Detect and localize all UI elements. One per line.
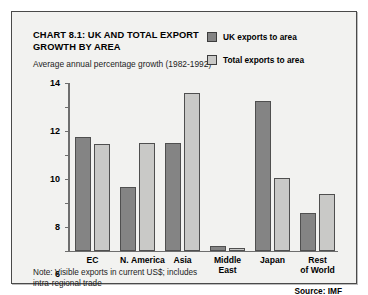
bar-group: Restof World xyxy=(300,83,335,251)
legend-label-total-exports: Total exports to area xyxy=(223,55,304,65)
x-axis-category-label: Restof World xyxy=(300,255,335,275)
x-axis-category-label: Japan xyxy=(255,255,290,265)
bar-group: Asia xyxy=(165,83,200,251)
legend-item-total-exports: Total exports to area xyxy=(207,55,342,65)
legend-item-uk-exports: UK exports to area xyxy=(207,32,342,42)
bar-total-exports xyxy=(319,194,335,250)
y-axis-tick-mark: 6 xyxy=(65,179,68,180)
bar-uk-exports xyxy=(210,246,226,250)
bar-uk-exports xyxy=(300,213,316,250)
y-axis-tick-mark: 10 xyxy=(65,131,68,132)
y-axis-tick-mark: 12 xyxy=(65,107,68,108)
bar-group: EC xyxy=(75,83,110,251)
legend-label-uk-exports: UK exports to area xyxy=(223,32,297,42)
bar-uk-exports xyxy=(75,137,91,251)
x-axis-line xyxy=(68,251,338,253)
bar-total-exports xyxy=(184,93,200,251)
chart-note: Note: Visible exports in current US$; in… xyxy=(33,268,218,289)
y-axis-tick-label: 8 xyxy=(55,222,60,232)
bar-uk-exports xyxy=(120,187,136,250)
bar-total-exports xyxy=(229,248,245,250)
y-axis-tick-label: 12 xyxy=(50,126,60,136)
bar-group: MiddleEast xyxy=(210,83,245,251)
chart-title: CHART 8.1: UK AND TOTAL EXPORT GROWTH BY… xyxy=(33,30,223,53)
x-axis-category-label: EC xyxy=(75,255,110,265)
y-axis-line xyxy=(68,83,70,252)
chart-legend: UK exports to area Total exports to area xyxy=(207,32,342,78)
y-axis-tick-label: 10 xyxy=(50,174,60,184)
bar-group: Japan xyxy=(255,83,290,251)
y-axis-tick-mark: 0 xyxy=(65,251,68,252)
y-axis-tick-label: 14 xyxy=(50,78,60,88)
bar-uk-exports xyxy=(165,143,181,251)
x-axis-category-label: N. America xyxy=(120,255,155,265)
y-axis-tick-mark: 4 xyxy=(65,203,68,204)
chart-figure: CHART 8.1: UK AND TOTAL EXPORT GROWTH BY… xyxy=(11,11,357,284)
legend-swatch-total-exports xyxy=(207,55,217,65)
y-axis-tick-mark: 8 xyxy=(65,155,68,156)
chart-source: Source: IMF xyxy=(295,286,342,295)
bar-total-exports xyxy=(274,178,290,251)
y-axis-tick-mark: 14 xyxy=(65,83,68,84)
bar-total-exports xyxy=(94,144,110,250)
legend-swatch-uk-exports xyxy=(207,32,217,42)
bar-group: N. America xyxy=(120,83,155,251)
y-axis-tick-mark: 2 xyxy=(65,227,68,228)
plot-area: 02468101214 ECN. AmericaAsiaMiddleEastJa… xyxy=(68,83,338,252)
bar-uk-exports xyxy=(255,101,271,251)
bar-total-exports xyxy=(139,143,155,251)
x-axis-category-label: Asia xyxy=(165,255,200,265)
